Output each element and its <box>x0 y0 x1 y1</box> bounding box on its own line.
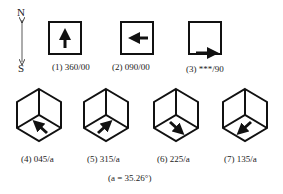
compass-south-label: S <box>18 62 24 74</box>
footnote: (a = 35.26°) <box>108 173 151 183</box>
cube-315-icon <box>84 89 128 141</box>
square-west-icon <box>121 22 153 54</box>
compass-north-label: N <box>17 6 25 18</box>
figure-label-3: (3) ***/90 <box>186 64 224 74</box>
cube-135-icon <box>223 89 267 141</box>
figure-label-2: (2) 090/00 <box>112 62 150 72</box>
figure-label-6: (6) 225/a <box>157 154 190 164</box>
cube-045-icon <box>17 89 61 141</box>
square-north-icon <box>49 22 81 54</box>
cube-225-icon <box>154 89 198 141</box>
figure-label-1: (1) 360/00 <box>52 62 90 72</box>
square-vertical-icon <box>189 22 221 54</box>
figure-label-7: (7) 135/a <box>224 154 257 164</box>
figure-label-5: (5) 315/a <box>87 154 120 164</box>
figure-label-4: (4) 045/a <box>21 154 54 164</box>
orientation-diagram <box>0 0 283 194</box>
